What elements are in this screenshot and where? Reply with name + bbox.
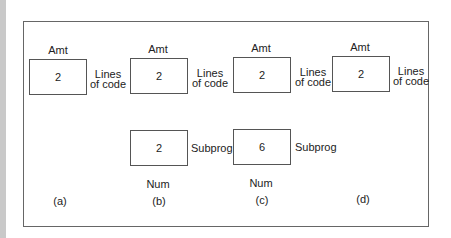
panel-c-amt-value: 2 bbox=[259, 69, 265, 81]
panel-c-lines-of-code-label: Lines of code bbox=[294, 67, 332, 87]
panel-b-subprog-label: Subprog bbox=[191, 142, 233, 154]
panel-b-amt-label: Amt bbox=[134, 43, 182, 55]
panel-d-amt-value: 2 bbox=[358, 68, 364, 80]
panel-b-lines-of-code-label: Lines of code bbox=[191, 68, 229, 88]
panel-c-amt-label: Amt bbox=[237, 42, 285, 54]
panel-b-num-value: 2 bbox=[156, 142, 162, 154]
panel-b-caption: (b) bbox=[147, 195, 171, 207]
panel-d-side-line2: of code bbox=[392, 76, 430, 86]
panel-a-side-line2: of code bbox=[89, 79, 127, 89]
panel-c-num-label: Num bbox=[237, 177, 285, 189]
left-edge-bar bbox=[0, 0, 6, 238]
panel-c-caption: (c) bbox=[250, 194, 274, 206]
panel-a-amt-box: 2 bbox=[29, 59, 87, 95]
panel-a-amt-value: 2 bbox=[55, 71, 61, 83]
panel-a-lines-of-code-label: Lines of code bbox=[89, 69, 127, 89]
panel-a-amt-label: Amt bbox=[34, 44, 82, 56]
panel-c-num-box: 6 bbox=[233, 129, 291, 165]
panel-d-lines-of-code-label: Lines of code bbox=[392, 66, 430, 86]
panel-b-num-box: 2 bbox=[130, 130, 188, 166]
panel-b-side-line2: of code bbox=[191, 78, 229, 88]
panel-b-amt-box: 2 bbox=[130, 58, 188, 94]
panel-a-caption: (a) bbox=[48, 195, 72, 207]
panel-b-num-label: Num bbox=[134, 178, 182, 190]
panel-c-side-line2: of code bbox=[294, 77, 332, 87]
panel-d-amt-label: Amt bbox=[336, 41, 384, 53]
panel-c-num-value: 6 bbox=[259, 141, 265, 153]
panel-c-amt-box: 2 bbox=[233, 57, 291, 93]
panel-d-caption: (d) bbox=[351, 193, 375, 205]
panel-d-amt-box: 2 bbox=[332, 56, 390, 92]
panel-b-amt-value: 2 bbox=[156, 70, 162, 82]
panel-c-subprog-label: Subprog bbox=[295, 141, 337, 153]
